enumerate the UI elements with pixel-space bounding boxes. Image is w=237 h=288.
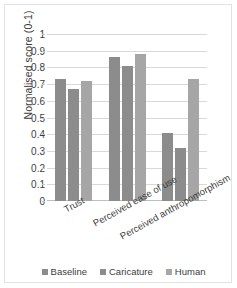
legend-swatch-icon bbox=[42, 269, 48, 275]
y-axis-tick-mark bbox=[42, 168, 45, 169]
legend-label: Baseline bbox=[51, 266, 87, 277]
y-axis-tick-label: 0.8 bbox=[7, 62, 45, 73]
y-axis-tick-label: 0.3 bbox=[7, 145, 45, 156]
bar bbox=[68, 89, 79, 201]
legend-swatch-icon bbox=[100, 269, 106, 275]
legend-item[interactable]: Human bbox=[166, 266, 206, 277]
bar bbox=[175, 148, 186, 201]
y-axis-tick-label: 0.9 bbox=[7, 45, 45, 56]
legend-label: Caricature bbox=[109, 266, 153, 277]
y-axis-tick-label: 0.1 bbox=[7, 179, 45, 190]
chart-legend: BaselineCaricatureHuman bbox=[5, 266, 237, 277]
legend-label: Human bbox=[175, 266, 206, 277]
y-axis-tick-mark bbox=[42, 184, 45, 185]
y-axis-tick-mark bbox=[42, 118, 45, 119]
x-axis-category-labels: TrustPerceived ease of usePerceived anth… bbox=[5, 201, 237, 259]
chart-container: Normalised score (0-1) 10.90.80.70.60.50… bbox=[4, 4, 232, 283]
y-axis-tick-label: 0.5 bbox=[7, 112, 45, 123]
bar bbox=[188, 79, 199, 201]
legend-item[interactable]: Caricature bbox=[100, 266, 153, 277]
bar bbox=[109, 57, 120, 201]
bar bbox=[122, 66, 133, 201]
y-axis-tick-mark bbox=[42, 134, 45, 135]
y-axis-tick-label: 0.2 bbox=[7, 162, 45, 173]
bar bbox=[81, 81, 92, 201]
y-axis-tick-label: 1 bbox=[7, 29, 45, 40]
gridline bbox=[47, 34, 207, 35]
y-axis-tick-label: 0.7 bbox=[7, 79, 45, 90]
plot-area bbox=[47, 34, 207, 201]
legend-item[interactable]: Baseline bbox=[42, 266, 87, 277]
y-axis-tick-labels: 10.90.80.70.60.50.40.30.20.10 bbox=[5, 34, 45, 201]
y-axis-tick-mark bbox=[42, 51, 45, 52]
y-axis-tick-mark bbox=[42, 151, 45, 152]
y-axis-tick-mark bbox=[42, 67, 45, 68]
y-axis-tick-mark bbox=[42, 84, 45, 85]
y-axis-tick-mark bbox=[42, 34, 45, 35]
gridline bbox=[47, 51, 207, 52]
y-axis-tick-label: 0.4 bbox=[7, 129, 45, 140]
bar bbox=[135, 54, 146, 201]
y-axis-tick-label: 0.6 bbox=[7, 95, 45, 106]
legend-swatch-icon bbox=[166, 269, 172, 275]
bar bbox=[55, 79, 66, 201]
y-axis-tick-mark bbox=[42, 101, 45, 102]
